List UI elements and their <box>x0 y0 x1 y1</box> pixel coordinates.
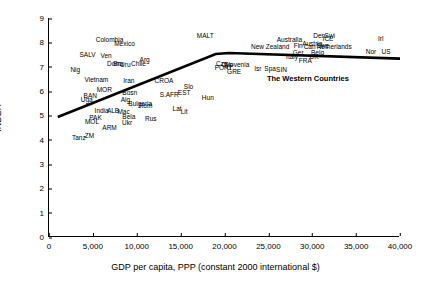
data-point-label: US <box>381 48 390 55</box>
y-axis-tick: 5 <box>40 111 49 120</box>
x-axis-tick: 30,000 <box>300 236 324 251</box>
data-point-label: Tanz <box>72 134 86 141</box>
data-point-label: MOR <box>97 87 112 94</box>
data-point-label: Rom <box>139 103 153 110</box>
x-axis-tick: 35,000 <box>344 236 368 251</box>
data-point-label: MALT <box>197 33 214 40</box>
data-point-label: Hun <box>202 95 214 102</box>
y-axis-tick: 9 <box>40 14 49 23</box>
scatter-chart: 012345678905,00010,00015,00020,00025,000… <box>0 0 431 295</box>
data-point-label: Nig <box>70 66 80 73</box>
y-axis-tick: 3 <box>40 160 49 169</box>
chart-annotation: The Western Countries <box>267 73 349 82</box>
data-point-label: EST <box>178 89 191 96</box>
x-tick-mark <box>137 233 138 236</box>
x-tick-mark <box>268 233 269 236</box>
data-point-label: ARM <box>102 125 116 132</box>
y-tick-mark <box>49 42 52 43</box>
x-tick-mark <box>400 233 401 236</box>
y-tick-mark <box>49 140 52 141</box>
y-axis-tick: 8 <box>40 38 49 47</box>
y-tick-mark <box>49 67 52 68</box>
y-axis-tick: 7 <box>40 62 49 71</box>
data-point-label: Irl <box>378 36 383 43</box>
x-tick-mark <box>225 233 226 236</box>
x-tick-mark <box>356 233 357 236</box>
x-tick-mark <box>312 233 313 236</box>
data-point-label: Iran <box>123 78 134 85</box>
x-axis-tick: 5,000 <box>83 236 103 251</box>
y-tick-mark <box>49 115 52 116</box>
data-point-label: Isr <box>254 66 261 73</box>
data-point-label: Uru <box>120 62 130 69</box>
y-tick-mark <box>49 213 52 214</box>
y-axis-tick: 1 <box>40 208 49 217</box>
data-point-label: Spa <box>264 66 276 73</box>
x-axis-tick: 20,000 <box>212 236 236 251</box>
data-point-label: Lit <box>181 109 188 116</box>
y-tick-mark <box>49 91 52 92</box>
data-point-label: Nor <box>366 48 376 55</box>
y-tick-mark <box>49 188 52 189</box>
data-point-label: New Zealand <box>251 44 289 51</box>
y-axis-tick: 6 <box>40 87 49 96</box>
data-point-label: Mexico <box>114 41 135 48</box>
x-tick-mark <box>93 233 94 236</box>
data-point-label: Uga <box>81 96 93 103</box>
y-axis-tick: 4 <box>40 135 49 144</box>
data-point-label: FRA <box>299 57 312 64</box>
data-point-label: SALV <box>80 52 96 59</box>
data-point-label: CROA <box>155 78 174 85</box>
y-tick-mark <box>49 18 52 19</box>
data-point-label: Rus <box>145 116 157 123</box>
data-point-label: Ukr <box>122 119 132 126</box>
y-axis-tick: 2 <box>40 184 49 193</box>
x-tick-mark <box>49 233 50 236</box>
x-axis-tick: 40,000 <box>388 236 412 251</box>
data-point-label: GRE <box>227 69 241 76</box>
data-point-label: ZM <box>85 133 94 140</box>
y-axis-title: INDEX <box>0 104 3 132</box>
x-axis-tick: 25,000 <box>256 236 280 251</box>
x-axis-title: GDP per capita, PPP (constant 2000 inter… <box>0 262 431 272</box>
data-point-label: Chile <box>131 60 146 67</box>
data-point-label: Vietnam <box>85 77 109 84</box>
x-axis-tick: 10,000 <box>125 236 149 251</box>
x-axis-tick: 15,000 <box>168 236 192 251</box>
data-point-label: MOL <box>85 119 99 126</box>
data-point-label: Italy <box>286 54 298 61</box>
data-point-label: SIN <box>276 66 287 73</box>
y-tick-mark <box>49 164 52 165</box>
x-axis-tick: 0 <box>47 236 51 251</box>
plot-area: 012345678905,00010,00015,00020,00025,000… <box>48 18 399 237</box>
data-point-label: S.AFR <box>160 91 179 98</box>
x-tick-mark <box>181 233 182 236</box>
data-point-label: Ven <box>100 52 111 59</box>
